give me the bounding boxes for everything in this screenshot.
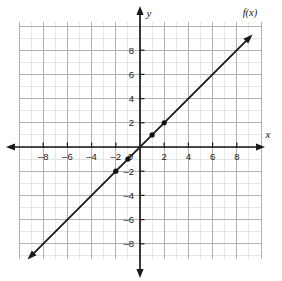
data-point — [125, 157, 130, 162]
y-axis-label: y — [146, 7, 152, 19]
y-tick-label: 4 — [129, 93, 134, 104]
y-tick-label: –8 — [123, 238, 134, 249]
y-tick-label: 6 — [129, 69, 134, 80]
data-point — [150, 132, 155, 137]
x-tick-label: 4 — [186, 151, 191, 162]
y-tick-label: –6 — [123, 214, 134, 225]
function-label: f(x) — [243, 7, 258, 19]
x-tick-label: –2 — [111, 151, 122, 162]
x-tick-label: –6 — [62, 151, 73, 162]
data-point — [113, 169, 118, 174]
y-tick-label: –4 — [123, 190, 134, 201]
x-tick-label: 8 — [234, 151, 239, 162]
data-point — [162, 120, 167, 125]
x-tick-label: –4 — [86, 151, 97, 162]
coordinate-plane-chart: –8–6–4–202468 –8–6–4–22468 x y f(x) — [0, 0, 282, 281]
coordinate-graph-figure: –8–6–4–202468 –8–6–4–22468 x y f(x) — [0, 0, 282, 281]
y-tick-label: 2 — [129, 117, 134, 128]
chart-background — [0, 0, 282, 281]
y-tick-label: –2 — [123, 166, 134, 177]
x-tick-label: –8 — [38, 151, 49, 162]
y-tick-label: 8 — [129, 45, 134, 56]
x-tick-label: 6 — [210, 151, 215, 162]
x-tick-label: 2 — [162, 151, 167, 162]
x-axis-label: x — [265, 128, 271, 140]
